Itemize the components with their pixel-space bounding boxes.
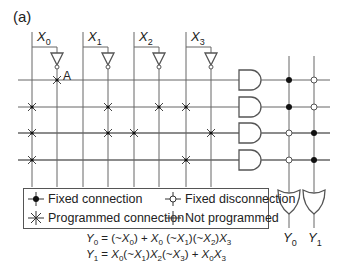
- legend-fixed-disconnection-label: Fixed disconnection: [185, 192, 295, 206]
- input-label-x1-name: X: [88, 29, 97, 44]
- pla-diagram: (a) X0 X1 X2 X3 A Y0 Y1 Fixed connection…: [0, 0, 344, 274]
- input-label-x1: X1: [88, 29, 102, 47]
- legend-fixed-disconnection: Fixed disconnection: [165, 192, 295, 206]
- branch-wire-x0: [32, 47, 57, 53]
- output-label-y0: Y0: [283, 230, 297, 248]
- fixed-connection-icon: [286, 104, 292, 110]
- output-label-y1: Y1: [308, 230, 322, 248]
- fixed-connection-icon: [311, 130, 317, 136]
- output-label-y1-sub: 1: [317, 238, 322, 248]
- and-gate-icon-1: [239, 70, 261, 90]
- branch-wire-x3: [186, 47, 211, 53]
- output-label-y0-sub: 0: [292, 238, 297, 248]
- legend-fixed-connection: Fixed connection: [28, 192, 143, 206]
- input-label-x3-sub: 3: [200, 37, 205, 47]
- or-gate-icon-y1: [303, 190, 325, 214]
- inverter-icon-x3: [205, 53, 217, 65]
- input-label-x3-name: X: [191, 29, 200, 44]
- fixed-disconnection-icon: [311, 77, 317, 83]
- input-label-x0-name: X: [37, 29, 46, 44]
- output-label-y1-name: Y: [308, 230, 317, 245]
- legend-box: Fixed connection Programmed connection F…: [23, 188, 269, 229]
- branch-wire-x1: [83, 47, 108, 53]
- branch-wire-x2: [134, 47, 159, 53]
- and-gate-icon-4: [239, 150, 261, 170]
- fixed-disconnection-icon: [311, 104, 317, 110]
- programmed-connection-icon: [28, 211, 44, 225]
- fixed-connection-icon: [28, 192, 44, 206]
- fixed-connection-icon: [286, 77, 292, 83]
- fixed-connection-icon: [311, 157, 317, 163]
- input-label-x2-sub: 2: [148, 37, 153, 47]
- fixed-disconnection-icon: [286, 157, 292, 163]
- legend-programmed-connection-label: Programmed connection: [48, 211, 184, 225]
- inverter-icon-x1: [102, 53, 114, 65]
- inverter-icon-x2: [153, 53, 165, 65]
- input-label-x3: X3: [191, 29, 205, 47]
- figure-label: (a): [13, 8, 31, 25]
- fixed-disconnection-icon: [286, 130, 292, 136]
- input-label-x0: X0: [37, 29, 51, 47]
- input-label-x1-sub: 1: [97, 37, 102, 47]
- legend-not-programmed: Not programmed: [165, 211, 279, 225]
- input-label-x2-name: X: [139, 29, 148, 44]
- not-programmed-icon: [165, 211, 181, 225]
- point-a-label: A: [63, 69, 71, 83]
- input-label-x2: X2: [139, 29, 153, 47]
- equation-y0: Y0 = (~X0) + X0 (~X1)(~X2)X3 Y0 = (~X0) …: [86, 232, 231, 247]
- connection-markers: [28, 76, 317, 164]
- legend-fixed-connection-label: Fixed connection: [48, 192, 143, 206]
- inverter-icon-x0: [51, 53, 63, 65]
- inverter-bubble-icon-x2: [157, 65, 161, 69]
- and-gate-icon-3: [239, 123, 261, 143]
- output-label-y0-name: Y: [283, 230, 292, 245]
- legend-programmed-connection: Programmed connection: [28, 211, 184, 225]
- inverter-bubble-icon-x1: [106, 65, 110, 69]
- fixed-disconnection-icon: [165, 192, 181, 206]
- inverter-bubble-icon-x3: [209, 65, 213, 69]
- inverter-bubble-icon-x0: [55, 65, 59, 69]
- equation-y1: Y1 = X0(~X1)X2(~X3) + X0X3 Y1 = X0(~X1)X…: [86, 248, 226, 263]
- and-gate-icon-2: [239, 97, 261, 117]
- input-label-x0-sub: 0: [46, 37, 51, 47]
- legend-not-programmed-label: Not programmed: [185, 211, 279, 225]
